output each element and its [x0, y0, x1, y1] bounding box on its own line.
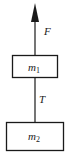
force-label: F [43, 25, 51, 37]
lower-block-label-sub: 2 [36, 135, 40, 144]
lower-block-label-base: m [28, 130, 36, 142]
arrow-up-icon [31, 3, 39, 22]
upper-block-label-sub: 1 [36, 66, 40, 75]
upper-block-label-base: m [28, 61, 36, 73]
force-diagram: F m1 T m2 [0, 0, 69, 158]
tension-label: T [39, 93, 46, 105]
